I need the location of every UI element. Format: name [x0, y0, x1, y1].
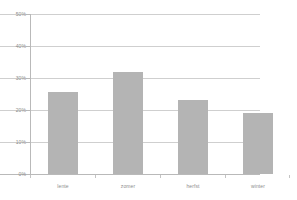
y-axis-label-30: 30%	[2, 75, 26, 81]
y-axis-label-10: 10%	[2, 139, 26, 145]
x-axis-label-zomer: zomer	[98, 183, 158, 189]
x-axis-label-winter: winter	[228, 183, 288, 189]
bar-herfst[interactable]	[178, 100, 208, 174]
x-tick-4	[289, 175, 290, 178]
x-axis-label-herfst: herfst	[163, 183, 223, 189]
bar-chart: 50% 40% 30% 20% 10% 0% lente zomer herfs…	[0, 0, 297, 200]
x-tick-2	[160, 175, 161, 178]
y-axis-label-40: 40%	[2, 43, 26, 49]
y-axis-label-50: 50%	[2, 11, 26, 17]
y-axis-label-20: 20%	[2, 107, 26, 113]
x-tick-0	[30, 175, 31, 178]
gridline-0-baseline	[0, 174, 260, 175]
bar-zomer[interactable]	[113, 72, 143, 174]
x-tick-3	[225, 175, 226, 178]
bar-lente[interactable]	[48, 92, 78, 174]
x-axis-label-lente: lente	[33, 183, 93, 189]
plot-area	[30, 14, 290, 174]
y-axis-label-0: 0%	[2, 171, 26, 177]
x-tick-1	[95, 175, 96, 178]
bar-winter[interactable]	[243, 113, 273, 174]
